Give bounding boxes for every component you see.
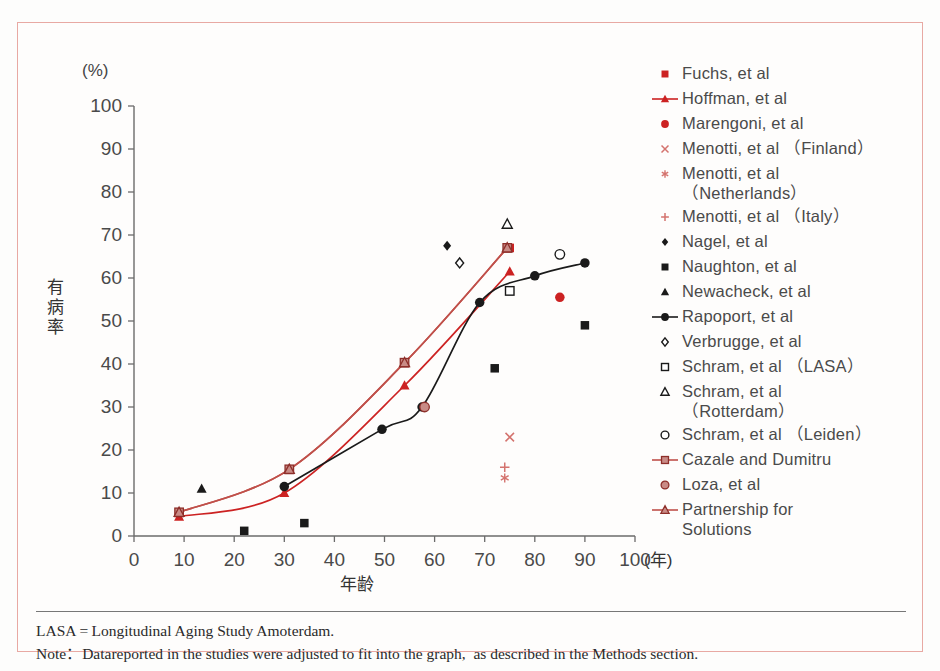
legend-item[interactable]: Nagel, et al: [638, 231, 938, 253]
y-tick-label: 40: [101, 353, 122, 374]
x-tick-label: 60: [424, 549, 445, 570]
y-tick-label: 10: [101, 482, 122, 503]
data-point-square-open: [662, 364, 669, 371]
legend-marker-square-filled-icon: [638, 63, 682, 85]
data-point-square-filled: [300, 519, 309, 528]
legend-marker-circle-open-icon: [638, 424, 682, 446]
footnote-lasa: LASA = Longitudinal Aging Study Amoterda…: [36, 619, 916, 642]
data-point-circle-filled: [580, 258, 590, 268]
legend-item-label: Loza, et al: [682, 474, 760, 494]
legend-item[interactable]: Newacheck, et al: [638, 281, 938, 303]
legend-item[interactable]: Loza, et al: [638, 474, 938, 496]
data-point-triangle-filled: [197, 483, 207, 492]
legend-item[interactable]: Schram, et al （Leiden）: [638, 424, 938, 446]
legend-item-label: Menotti, et al （Netherlands）: [682, 163, 808, 203]
footer-divider: [36, 611, 906, 612]
data-point-circle-open: [555, 250, 565, 260]
legend-item[interactable]: Cazale and Dumitru: [638, 449, 938, 471]
legend-item[interactable]: Verbrugge, et al: [638, 331, 938, 353]
legend-item-label: Marengoni, et al: [682, 113, 804, 133]
y-tick-label: 90: [101, 138, 122, 159]
x-tick-label: 40: [324, 549, 345, 570]
y-tick-label: 50: [101, 310, 122, 331]
series-markers: [500, 462, 510, 472]
legend-marker-triangle-filled-icon: [638, 88, 682, 110]
legend-item[interactable]: Schram, et al （Rotterdam）: [638, 381, 938, 421]
legend-item[interactable]: Hoffman, et al: [638, 88, 938, 110]
legend-marker-square-filled-icon: [638, 256, 682, 278]
data-point-circle-filled: [530, 271, 540, 281]
legend-item[interactable]: Fuchs, et al: [638, 63, 938, 85]
legend-item[interactable]: Schram, et al （LASA）: [638, 356, 938, 378]
data-point-circle-filled: [661, 120, 669, 128]
series-markers: [280, 258, 590, 491]
data-point-cross-x: [506, 433, 515, 442]
legend-item[interactable]: Menotti, et al （Netherlands）: [638, 163, 938, 203]
series-line: [179, 248, 507, 512]
figure-page: (%) 有病率 年齢 (年) 0102030405060708090100010…: [0, 0, 940, 671]
series-markers: [502, 219, 512, 228]
data-point-triangle-open: [502, 219, 512, 228]
y-tick-label: 70: [101, 224, 122, 245]
x-tick-label: 0: [129, 549, 140, 570]
legend-item-label: Schram, et al （Leiden）: [682, 424, 872, 444]
legend-item-label: Newacheck, et al: [682, 281, 811, 301]
legend-item[interactable]: Menotti, et al （Italy）: [638, 206, 938, 228]
y-tick-label: 20: [101, 439, 122, 460]
data-point-diamond-filled: [443, 241, 451, 251]
x-tick-label: 70: [474, 549, 495, 570]
legend-item[interactable]: Naughton, et al: [638, 256, 938, 278]
series-line: [179, 272, 510, 517]
legend-item-label: Nagel, et al: [682, 231, 768, 251]
data-point-circle-filled: [661, 313, 669, 321]
legend-item[interactable]: Rapoport, et al: [638, 306, 938, 328]
legend-marker-triangle-open-icon: [638, 381, 682, 403]
data-point-plus: [500, 462, 510, 472]
data-point-diamond-filled: [662, 238, 669, 246]
x-tick-label: 100: [619, 549, 651, 570]
legend-marker-cross-x-icon: [638, 138, 682, 160]
y-tick-label: 0: [111, 525, 122, 546]
legend-item-label: Verbrugge, et al: [682, 331, 802, 351]
data-point-square-filled: [581, 321, 590, 330]
legend-item-label: Cazale and Dumitru: [682, 449, 831, 469]
chart-svg: 0102030405060708090100010203040506070809…: [18, 23, 658, 583]
legend-item-label: Schram, et al （LASA）: [682, 356, 864, 376]
legend-item[interactable]: Menotti, et al （Finland）: [638, 138, 938, 160]
y-tick-label: 30: [101, 396, 122, 417]
legend-marker-triangle-filled-icon: [638, 281, 682, 303]
legend-marker-diamond-open-icon: [638, 331, 682, 353]
data-point-square-filled: [490, 364, 499, 373]
y-tick-label: 60: [101, 267, 122, 288]
data-point-circle-half: [661, 481, 669, 489]
data-point-circle-filled: [377, 425, 387, 435]
data-point-circle-open: [661, 431, 669, 439]
legend-item-label: Menotti, et al （Italy）: [682, 206, 850, 226]
legend-item[interactable]: Partnership for Solutions: [638, 499, 938, 539]
legend-marker-plus-icon: [638, 206, 682, 228]
data-point-plus: [661, 213, 669, 221]
legend-marker-square-half-icon: [638, 449, 682, 471]
data-point-cross-x: [662, 146, 669, 153]
data-point-triangle-open: [661, 388, 669, 396]
legend-item-label: Menotti, et al （Finland）: [682, 138, 874, 158]
data-point-square-open: [506, 287, 515, 296]
legend-item[interactable]: Marengoni, et al: [638, 113, 938, 135]
legend-marker-diamond-filled-icon: [638, 231, 682, 253]
data-point-diamond-open: [456, 258, 464, 268]
data-point-circle-half: [420, 402, 430, 412]
series-markers: [555, 293, 565, 303]
series-markers: [501, 473, 509, 482]
figure-frame: (%) 有病率 年齢 (年) 0102030405060708090100010…: [17, 22, 923, 652]
legend-marker-circle-half-icon: [638, 474, 682, 496]
x-tick-label: 10: [174, 549, 195, 570]
series-markers: [174, 243, 512, 517]
x-tick-label: 90: [574, 549, 595, 570]
series-markers: [197, 483, 207, 492]
series-markers: [506, 287, 515, 296]
legend-marker-circle-filled-icon: [638, 113, 682, 135]
data-point-circle-filled: [475, 298, 485, 308]
data-point-square-filled: [240, 527, 249, 536]
data-point-triangle-filled: [661, 288, 669, 296]
legend-marker-asterisk-icon: [638, 163, 682, 185]
